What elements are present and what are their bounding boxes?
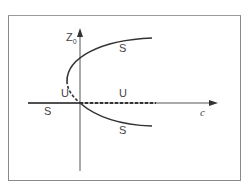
upper-branch-label: S <box>119 43 126 54</box>
y-axis-label: Z0 <box>66 32 77 45</box>
y-axis-arrow-icon <box>77 28 83 37</box>
x-axis-arrow-icon <box>209 100 218 106</box>
lower-branch-label: S <box>119 125 126 136</box>
x-axis-label: c <box>200 107 205 118</box>
turning-branch-label: U <box>61 88 69 99</box>
trivial-left-label: S <box>44 106 51 117</box>
trivial-right-label: U <box>119 88 127 99</box>
lower-branch-stable <box>80 103 152 126</box>
